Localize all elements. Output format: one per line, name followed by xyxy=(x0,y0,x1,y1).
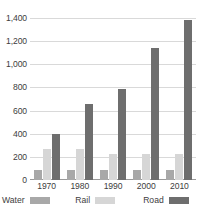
road-swatch-icon xyxy=(169,197,189,204)
chart-legend: Water Rail Road xyxy=(2,194,197,206)
x-tick-label-1970: 1970 xyxy=(30,181,63,192)
rail-swatch-icon xyxy=(95,197,115,204)
bar-group-2000 xyxy=(130,18,163,180)
bar-water-1970 xyxy=(34,170,42,180)
plot-area xyxy=(30,18,196,180)
bar-rail-1990 xyxy=(109,154,117,180)
legend-label-water: Water xyxy=(2,195,25,205)
bar-water-2000 xyxy=(133,170,141,180)
legend-item-rail: Rail xyxy=(75,195,129,205)
water-swatch-icon xyxy=(30,197,50,204)
bar-chart: 1,400 1,200 1,000 800 600 400 200 0 xyxy=(0,0,199,214)
bar-rail-2010 xyxy=(175,154,183,180)
y-axis-labels: 1,400 1,200 1,000 800 600 400 200 0 xyxy=(0,18,27,180)
bar-rail-1980 xyxy=(76,149,84,180)
x-tick-label-1980: 1980 xyxy=(63,181,96,192)
bar-group-1970 xyxy=(30,18,63,180)
bar-road-1980 xyxy=(85,104,93,180)
legend-item-road: Road xyxy=(143,195,197,205)
x-tick-label-1990: 1990 xyxy=(96,181,129,192)
y-tick-label: 400 xyxy=(0,129,27,138)
y-tick-label: 1,400 xyxy=(0,14,27,23)
legend-label-rail: Rail xyxy=(75,195,90,205)
x-tick-label-2010: 2010 xyxy=(163,181,196,192)
bar-rail-2000 xyxy=(142,154,150,180)
bar-group-2010 xyxy=(163,18,196,180)
legend-label-road: Road xyxy=(143,195,164,205)
bar-rail-1970 xyxy=(43,149,51,180)
x-tick-label-2000: 2000 xyxy=(130,181,163,192)
bar-road-2000 xyxy=(151,48,159,180)
bar-water-1990 xyxy=(100,170,108,180)
y-tick-label: 0 xyxy=(0,176,27,185)
clipped-caption xyxy=(4,209,194,213)
x-axis-labels: 1970 1980 1990 2000 2010 xyxy=(30,181,196,192)
y-tick-label: 600 xyxy=(0,106,27,115)
bar-road-1990 xyxy=(118,89,126,180)
bar-road-1970 xyxy=(52,134,60,180)
y-tick-label: 800 xyxy=(0,83,27,92)
y-tick-label: 200 xyxy=(0,152,27,161)
legend-item-water: Water xyxy=(2,195,61,205)
bar-groups xyxy=(30,18,196,180)
bar-water-1980 xyxy=(67,170,75,180)
bar-road-2010 xyxy=(184,20,192,180)
bar-group-1990 xyxy=(96,18,129,180)
bar-water-2010 xyxy=(166,170,174,180)
y-tick-label: 1,000 xyxy=(0,60,27,69)
bar-group-1980 xyxy=(63,18,96,180)
y-tick-label: 1,200 xyxy=(0,37,27,46)
